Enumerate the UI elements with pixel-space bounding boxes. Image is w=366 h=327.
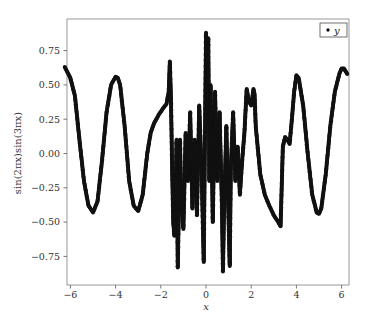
y-tick-label: −0.25 bbox=[31, 182, 60, 193]
scatter-chart: −6−4−20246 0.750.500.250.00−0.25−0.50−0.… bbox=[0, 0, 366, 327]
y-axis-ticks: 0.750.500.250.00−0.25−0.50−0.75 bbox=[31, 45, 67, 262]
x-axis-ticks: −6−4−20246 bbox=[63, 285, 344, 300]
y-tick-label: 0.25 bbox=[39, 114, 60, 125]
y-tick-label: −0.50 bbox=[31, 216, 60, 227]
y-tick-label: 0.50 bbox=[39, 79, 60, 90]
legend: y bbox=[320, 23, 347, 37]
x-tick-label: 6 bbox=[339, 289, 345, 300]
y-axis-label: sin(2πx)sin(3πx) bbox=[12, 112, 23, 194]
x-tick-label: 0 bbox=[203, 289, 209, 300]
x-tick-label: −2 bbox=[154, 289, 168, 300]
y-tick-label: 0.75 bbox=[39, 45, 60, 56]
y-tick-label: 0.00 bbox=[39, 148, 60, 159]
x-tick-label: 2 bbox=[248, 289, 254, 300]
x-axis-label: x bbox=[203, 301, 209, 312]
legend-marker-icon bbox=[326, 28, 329, 31]
y-tick-label: −0.75 bbox=[31, 251, 60, 262]
x-tick-label: −6 bbox=[63, 289, 77, 300]
x-tick-label: 4 bbox=[293, 289, 299, 300]
legend-label-y: y bbox=[333, 25, 340, 36]
x-tick-label: −4 bbox=[109, 289, 123, 300]
